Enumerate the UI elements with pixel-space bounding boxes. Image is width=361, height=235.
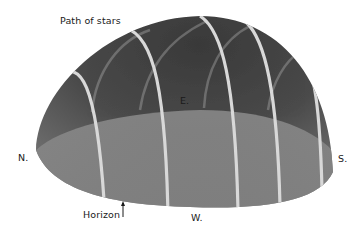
- celestial-dome-diagram: Path of stars E. N. S. W. Horizon: [0, 0, 361, 235]
- dome-graphic: [0, 0, 361, 235]
- west-label: W.: [191, 212, 203, 223]
- east-label: E.: [180, 95, 189, 106]
- south-label: S.: [338, 153, 347, 164]
- horizon-label: Horizon: [83, 209, 120, 220]
- dome: [20, 16, 340, 235]
- horizon-arrow-icon: [121, 201, 125, 206]
- north-label: N.: [18, 152, 28, 163]
- path-of-stars-label: Path of stars: [60, 15, 121, 26]
